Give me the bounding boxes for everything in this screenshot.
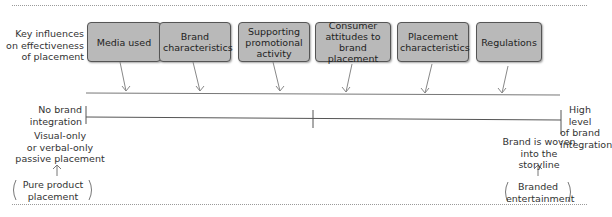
label-line: High level [560, 104, 600, 127]
arrow-icon [120, 62, 130, 91]
integration-scale-line [86, 117, 561, 120]
arrow-icon [498, 66, 508, 93]
label-line: passive placement [14, 153, 106, 165]
right-end-description: Brand is woven into the storyline [500, 136, 578, 171]
up-arrow-icon [53, 165, 61, 176]
label-line: entertainment [506, 193, 570, 205]
left-end-description: Visual-only or verbal-only passive place… [14, 130, 106, 165]
label-line: into the storyline [500, 148, 578, 171]
influence-baseline [86, 93, 560, 95]
label-line: Branded [506, 181, 570, 193]
right-end-type: Branded entertainment [506, 181, 570, 204]
arrow-icon [193, 62, 204, 91]
label-line: Pure product [16, 179, 90, 191]
left-end-type: Pure product placement [16, 179, 90, 202]
label-line: Brand is woven [500, 136, 578, 148]
arrow-icon [421, 64, 432, 93]
scale-left-label: No brand integration [8, 104, 82, 127]
arrow-icon [342, 64, 352, 92]
label-line: Visual-only [14, 130, 106, 142]
label-line: or verbal-only [14, 142, 106, 154]
arrow-icon [273, 62, 284, 91]
label-line: integration [8, 116, 82, 128]
label-line: No brand [8, 104, 82, 116]
label-line: placement [16, 191, 90, 203]
